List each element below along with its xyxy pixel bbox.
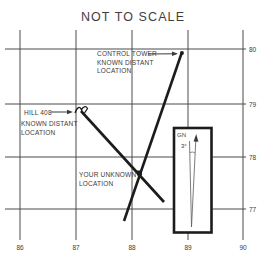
northing-label-80: 80 bbox=[249, 46, 257, 53]
easting-label-87: 87 bbox=[72, 244, 80, 251]
northing-label-78: 78 bbox=[249, 154, 257, 161]
easting-label-88: 88 bbox=[128, 244, 136, 251]
not-to-scale-diagram: NOT TO SCALE 86 87 88 89 90 bbox=[0, 0, 268, 267]
easting-label-89: 89 bbox=[184, 244, 192, 251]
easting-label-90: 90 bbox=[239, 244, 247, 251]
hill-label-line1: HILL 408 bbox=[24, 109, 52, 116]
hill-label-line2: KNOWN DISTANT bbox=[21, 120, 78, 127]
northing-label-79: 79 bbox=[249, 101, 257, 108]
control-tower-label-line3: LOCATION bbox=[97, 67, 131, 74]
northing-label-77: 77 bbox=[249, 206, 257, 213]
declination-angle-label: 3° bbox=[181, 143, 187, 149]
grid-north-label: GN bbox=[177, 132, 186, 138]
unknown-location-marker bbox=[137, 171, 142, 176]
easting-label-86: 86 bbox=[16, 244, 24, 251]
declination-diagram: GN 3° bbox=[174, 128, 212, 233]
resection-diagram-canvas: NOT TO SCALE 86 87 88 89 90 bbox=[0, 0, 268, 267]
control-tower-point bbox=[180, 51, 184, 55]
hill-label-line3: LOCATION bbox=[21, 129, 55, 136]
control-tower-label-line2: KNOWN DISTANT bbox=[97, 59, 154, 66]
declination-box bbox=[174, 128, 212, 233]
unknown-label-line2: LOCATION bbox=[79, 180, 113, 187]
diagram-title: NOT TO SCALE bbox=[81, 10, 185, 24]
unknown-label-line1: YOUR UNKNOWN bbox=[79, 171, 136, 178]
